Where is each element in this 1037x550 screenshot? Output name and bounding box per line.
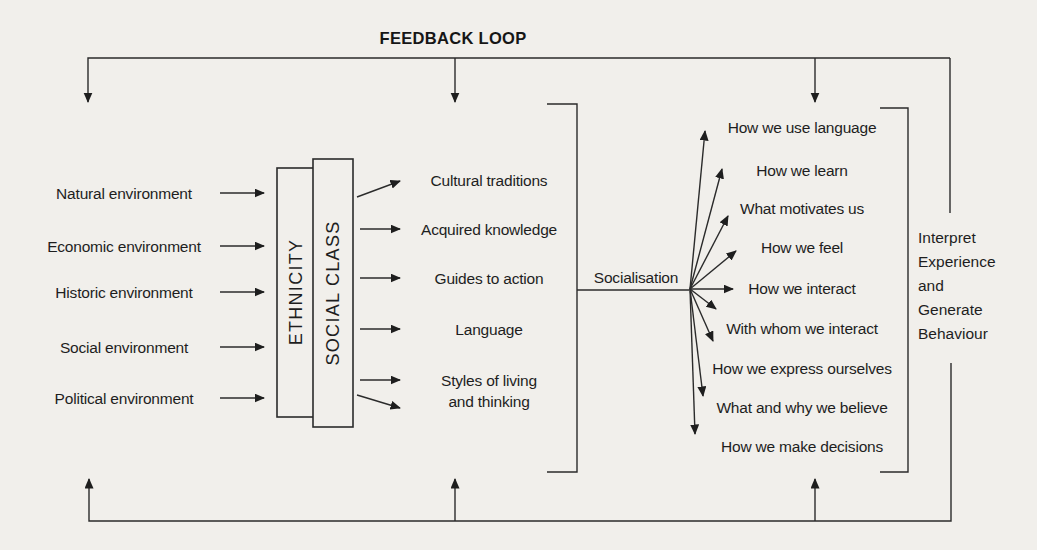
output-label-cultural-traditions: Cultural traditions bbox=[431, 170, 548, 191]
outcome-label-believe: What and why we believe bbox=[716, 397, 887, 418]
outputs-bracket bbox=[547, 104, 577, 472]
diagram-canvas: FEEDBACK LOOP Natural environment Econom… bbox=[0, 0, 1037, 550]
interpretation-label: Interpret Experience and Generate Behavi… bbox=[918, 226, 996, 346]
outcome-label-express: How we express ourselves bbox=[712, 358, 892, 379]
outcome-label-with-whom: With whom we interact bbox=[726, 318, 878, 339]
output-label-acquired-knowledge: Acquired knowledge bbox=[421, 219, 557, 240]
fan-arrow-feel bbox=[690, 251, 736, 289]
feedback-top-line bbox=[88, 58, 950, 102]
outcome-label-use-language: How we use language bbox=[728, 117, 877, 138]
environment-label-historic: Historic environment bbox=[55, 282, 192, 303]
mediator-arrows bbox=[357, 181, 400, 408]
output-label-guides-to-action: Guides to action bbox=[435, 268, 544, 289]
environment-arrows bbox=[220, 193, 264, 398]
output-label-styles-of-living: Styles of living and thinking bbox=[441, 370, 537, 412]
diagram-title: FEEDBACK LOOP bbox=[380, 29, 527, 48]
ethnicity-label: ETHNICITY bbox=[286, 239, 307, 346]
environment-label-political: Political environment bbox=[55, 388, 194, 409]
outcome-label-interact: How we interact bbox=[748, 278, 855, 299]
outcome-label-feel: How we feel bbox=[761, 237, 843, 258]
socialisation-fan-arrows bbox=[690, 131, 736, 434]
outcome-label-decisions: How we make decisions bbox=[721, 436, 883, 457]
outcome-label-learn: How we learn bbox=[756, 160, 848, 181]
social-class-label: SOCIAL CLASS bbox=[323, 221, 344, 366]
output-label-language: Language bbox=[455, 319, 522, 340]
fan-arrow-learn bbox=[690, 169, 722, 289]
arrow-cultural-traditions bbox=[357, 181, 400, 197]
environment-label-economic: Economic environment bbox=[47, 236, 201, 257]
environment-label-social: Social environment bbox=[60, 337, 188, 358]
environment-label-natural: Natural environment bbox=[56, 183, 192, 204]
socialisation-label: Socialisation bbox=[594, 267, 678, 288]
outcome-label-motivates: What motivates us bbox=[740, 198, 864, 219]
arrow-and-thinking bbox=[357, 395, 400, 408]
